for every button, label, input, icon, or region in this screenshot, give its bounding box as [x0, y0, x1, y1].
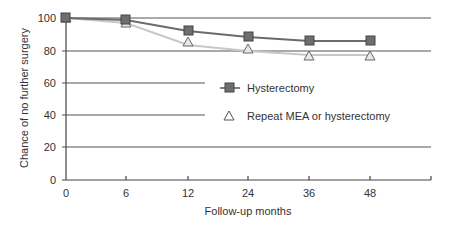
y-tick-40: 40 — [44, 109, 56, 121]
square-marker — [61, 13, 70, 22]
x-tick-6: 6 — [123, 187, 129, 199]
square-marker — [366, 36, 375, 45]
square-marker — [305, 36, 314, 45]
x-tick-48: 48 — [364, 187, 376, 199]
survival-chart: 100 80 60 40 20 0 0 6 12 24 36 48 Follow… — [0, 0, 449, 225]
square-marker — [184, 26, 193, 35]
triangle-marker — [243, 44, 253, 53]
legend-triangle-icon — [224, 111, 234, 120]
y-tick-labels: 100 80 60 40 20 0 — [38, 12, 56, 186]
x-tick-24: 24 — [242, 187, 254, 199]
x-axis-label: Follow-up months — [205, 205, 292, 217]
legend-item-repeat-mea: Repeat MEA or hysterectomy — [247, 110, 391, 122]
y-tick-20: 20 — [44, 141, 56, 153]
square-marker — [244, 32, 253, 41]
x-tick-0: 0 — [63, 187, 69, 199]
x-tick-12: 12 — [182, 187, 194, 199]
triangle-marker — [183, 37, 193, 46]
y-tick-60: 60 — [44, 77, 56, 89]
y-tick-0: 0 — [50, 174, 56, 186]
y-tick-100: 100 — [38, 12, 56, 24]
square-marker — [121, 15, 130, 24]
y-axis-label: Chance of no further surgery — [18, 27, 30, 168]
legend: Hysterectomy Repeat MEA or hysterectomy — [220, 82, 391, 122]
legend-item-hysterectomy: Hysterectomy — [247, 82, 315, 94]
y-tick-80: 80 — [44, 45, 56, 57]
legend-square-icon — [225, 83, 234, 92]
x-tick-36: 36 — [303, 187, 315, 199]
x-tick-labels: 0 6 12 24 36 48 — [63, 187, 376, 199]
